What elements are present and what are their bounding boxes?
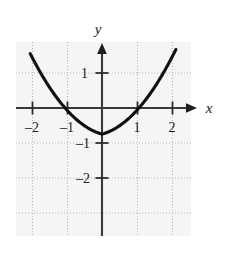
y-tick-label--1: –1 <box>75 136 90 151</box>
x-axis-label: x <box>205 100 213 116</box>
x-tick-label--2: –2 <box>24 120 39 135</box>
x-tick-label--1: –1 <box>59 120 74 135</box>
x-axis-arrowhead <box>186 103 197 113</box>
x-tick-label-2: 2 <box>169 120 176 135</box>
y-axis-label: y <box>93 21 102 37</box>
y-tick-label-1: 1 <box>81 66 88 81</box>
graph-figure: y x –2 –1 1 2 1 –1 –2 <box>0 0 225 253</box>
y-tick-label--2: –2 <box>75 171 90 186</box>
x-tick-label-1: 1 <box>134 120 141 135</box>
parabola-graph: y x –2 –1 1 2 1 –1 –2 <box>0 0 225 253</box>
